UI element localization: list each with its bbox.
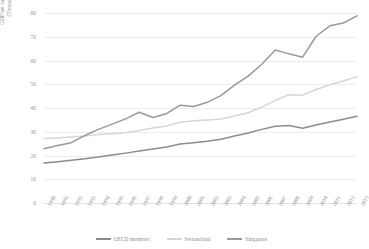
- legend-item[interactable]: Singapore: [227, 236, 267, 242]
- legend-label: Singapore: [245, 236, 267, 242]
- legend-label: OECD members: [114, 236, 150, 242]
- y-axis-tick-label: 20: [0, 153, 36, 159]
- x-axis: 1990199119921993199419951996199719981999…: [44, 204, 357, 238]
- legend-label: Switzerland: [185, 236, 211, 242]
- y-axis-tick-label: 60: [0, 58, 36, 64]
- y-axis-tick-label: 30: [0, 129, 36, 135]
- chart-legend: OECD membersSwitzerlandSingapore: [0, 236, 363, 242]
- legend-item[interactable]: OECD members: [96, 236, 150, 242]
- y-axis-tick-label: 40: [0, 105, 36, 111]
- plot-area: [44, 13, 357, 203]
- series-line-singapore: [44, 16, 357, 149]
- legend-swatch-icon: [167, 238, 182, 240]
- series-lines: [44, 13, 357, 203]
- y-axis-tick-label: 0: [0, 200, 36, 206]
- y-axis-tick-label: 50: [0, 81, 36, 87]
- legend-swatch-icon: [227, 238, 242, 240]
- x-axis-tick-label: 2013: [359, 195, 369, 207]
- legend-item[interactable]: Switzerland: [167, 236, 211, 242]
- y-axis-tick-label: 10: [0, 176, 36, 182]
- series-line-switzerland: [44, 77, 357, 139]
- series-line-oecd-members: [44, 116, 357, 163]
- legend-swatch-icon: [96, 238, 111, 240]
- y-axis-title-unit: (Thousands): [6, 0, 12, 58]
